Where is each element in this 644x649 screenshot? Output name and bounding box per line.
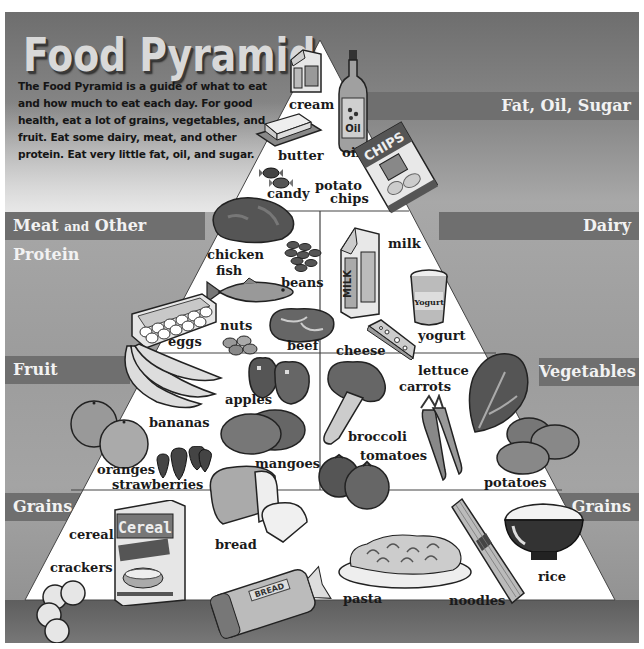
food-label-milk: milk — [388, 237, 421, 251]
food-label-beef: beef — [287, 339, 318, 353]
food-label-noodles: noodles — [449, 594, 505, 608]
food-label-nuts: nuts — [220, 319, 252, 333]
food-label-bread: bread — [215, 538, 257, 552]
svg-text:Cereal: Cereal — [118, 519, 172, 537]
food-label-crackers: crackers — [50, 561, 113, 575]
food-label-carrots: carrots — [399, 380, 451, 394]
mangoes-icon — [219, 408, 309, 458]
cereal-box-icon: Cereal — [113, 500, 189, 606]
beans-icon — [283, 239, 325, 273]
food-label-cereal: cereal — [69, 528, 114, 542]
food-label-chicken: chicken — [207, 248, 264, 262]
svg-text:MILK: MILK — [342, 269, 353, 298]
svg-text:Yogurt: Yogurt — [413, 297, 444, 307]
food-pyramid-poster: Fat, Oil, Sugar Meat and Other Protein D… — [5, 12, 639, 643]
food-label-apples: apples — [225, 393, 272, 407]
crackers-icon — [35, 577, 97, 643]
food-label-rice: rice — [538, 570, 566, 584]
food-label-oranges: oranges — [97, 463, 155, 477]
food-label-tomatoes: tomatoes — [360, 449, 427, 463]
food-label-lettuce: lettuce — [418, 364, 469, 378]
butter-dish-icon — [255, 110, 323, 150]
rice-bowl-icon — [503, 502, 585, 564]
food-label-cheese: cheese — [336, 344, 386, 358]
food-label-bananas: bananas — [149, 416, 210, 430]
food-label-strawberries: strawberries — [112, 478, 203, 492]
page-title: Food Pyramid — [23, 28, 315, 82]
food-label-pasta: pasta — [343, 592, 382, 606]
chicken-icon — [208, 195, 298, 245]
food-label-broccoli: broccoli — [348, 430, 407, 444]
milk-carton-icon: MILK — [339, 224, 383, 320]
cream-carton-icon — [287, 46, 325, 96]
potatoes-icon — [493, 414, 583, 476]
chips-bag-icon: CHIPS — [350, 116, 444, 214]
food-label-potatoes: potatoes — [484, 476, 546, 490]
food-label-butter: butter — [278, 149, 324, 163]
bread-bag-icon: BREAD — [203, 562, 333, 642]
food-label-yogurt: yogurt — [418, 329, 466, 343]
intro-paragraph: The Food Pyramid is a guide of what to e… — [18, 78, 268, 163]
